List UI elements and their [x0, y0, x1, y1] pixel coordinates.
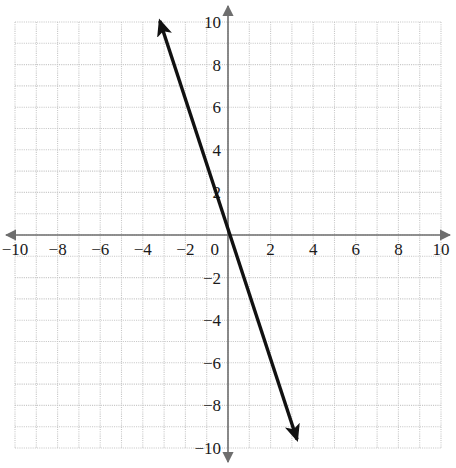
y-tick-label: 10 — [204, 13, 221, 32]
y-tick-label: 8 — [213, 56, 222, 75]
x-tick-label: −6 — [91, 240, 109, 259]
x-tick-label: −10 — [2, 240, 29, 259]
y-tick-label: −4 — [203, 311, 222, 330]
y-tick-label: 6 — [213, 98, 222, 117]
x-tick-label: 2 — [266, 240, 275, 259]
x-tick-label: −8 — [49, 240, 67, 259]
x-tick-label: 6 — [352, 240, 361, 259]
graph-canvas: −10−8−6−4−20246810 108642−2−4−6−8−10 — [0, 0, 456, 468]
y-tick-label: −10 — [194, 439, 221, 458]
x-tick-label: 10 — [433, 240, 450, 259]
y-tick-label: −8 — [203, 396, 221, 415]
x-tick-label: −4 — [134, 240, 153, 259]
y-tick-label: 4 — [213, 141, 222, 160]
x-tick-label: 0 — [211, 240, 220, 259]
y-tick-label: −6 — [203, 354, 221, 373]
x-tick-label: 8 — [394, 240, 403, 259]
x-tick-label: 4 — [309, 240, 318, 259]
y-tick-label: −2 — [203, 269, 221, 288]
coordinate-plane-figure: 21 −10−8−6−4−20246810 108642−2−4−6−8−10 — [0, 0, 456, 468]
x-tick-label: −2 — [176, 240, 194, 259]
